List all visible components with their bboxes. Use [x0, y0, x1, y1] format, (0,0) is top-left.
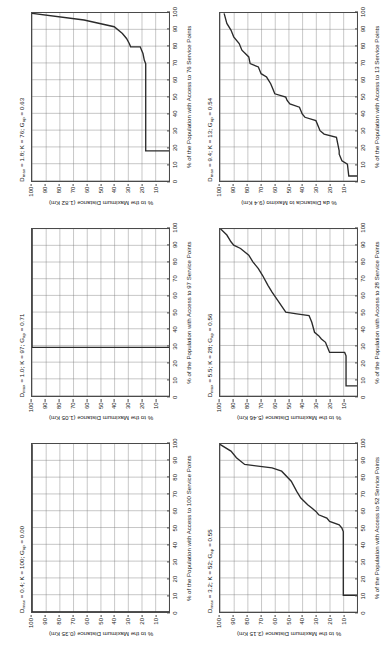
- y-tick-label: 40: [299, 187, 305, 194]
- x-tick-mark: [167, 397, 170, 398]
- y-tick-label: 90: [42, 187, 48, 194]
- x-tick-mark: [355, 181, 358, 182]
- x-tick-mark: [167, 181, 170, 182]
- y-tick-label: 50: [286, 618, 292, 625]
- x-tick-label: 90: [172, 241, 178, 248]
- panel-dmax-3-2: Dmax = 3.2; K = 52; Gap = 0.551020304050…: [206, 441, 384, 647]
- x-tick-label: 60: [172, 77, 178, 84]
- y-tick-label: 30: [125, 618, 131, 625]
- y-tick-label: 100: [216, 187, 222, 197]
- y-tick-label: 70: [258, 618, 264, 625]
- y-tick-mark: [142, 615, 143, 618]
- x-tick-label: 30: [172, 343, 178, 350]
- x-tick-label: 100: [172, 438, 178, 448]
- x-tick-label: 20: [172, 360, 178, 367]
- x-tick-label: 90: [360, 241, 366, 248]
- y-tick-mark: [128, 399, 129, 402]
- y-tick-mark: [274, 399, 275, 402]
- x-tick-mark: [167, 494, 170, 495]
- x-tick-mark: [167, 380, 170, 381]
- y-tick-label: 10: [153, 187, 159, 194]
- panel-dmax-1-0: Dmax = 1.0; K = 97; Gap = 0.711020304050…: [18, 226, 196, 432]
- y-tick-mark: [58, 399, 59, 402]
- x-tick-mark: [355, 113, 358, 114]
- y-tick-label: 10: [341, 618, 347, 625]
- x-tick-label: 30: [360, 127, 366, 134]
- y-tick-mark: [302, 399, 303, 402]
- y-axis-label-host: % to the Maximum Distance (5.46 Km): [219, 419, 358, 431]
- cdf-curve: [224, 13, 357, 176]
- plot-area: [31, 12, 170, 182]
- y-tick-label: 70: [70, 402, 76, 409]
- y-tick-label: 40: [299, 618, 305, 625]
- y-tick-mark: [100, 399, 101, 402]
- x-tick-label: 0: [360, 180, 366, 183]
- plot-grid: [219, 443, 358, 613]
- plot-grid: [31, 12, 170, 182]
- y-tick-mark: [274, 184, 275, 187]
- y-tick-mark: [31, 184, 32, 187]
- x-tick-mark: [167, 363, 170, 364]
- x-tick-mark: [355, 494, 358, 495]
- y-tick-mark: [316, 184, 317, 187]
- y-tick-label: 30: [125, 402, 131, 409]
- y-tick-label: 50: [98, 618, 104, 625]
- y-tick-label: 10: [153, 618, 159, 625]
- x-tick-mark: [355, 397, 358, 398]
- y-tick-label: 70: [258, 402, 264, 409]
- x-tick-label: 30: [360, 343, 366, 350]
- y-tick-mark: [100, 184, 101, 187]
- y-tick-label: 60: [84, 402, 90, 409]
- y-tick-mark: [156, 615, 157, 618]
- x-tick-mark: [355, 295, 358, 296]
- x-tick-label: 80: [360, 258, 366, 265]
- x-tick-mark: [167, 579, 170, 580]
- x-tick-label: 40: [360, 542, 366, 549]
- x-tick-label: 20: [172, 576, 178, 583]
- plot-area: [219, 12, 358, 182]
- y-tick-mark: [142, 184, 143, 187]
- y-tick-label: 20: [139, 618, 145, 625]
- y-tick-mark: [114, 615, 115, 618]
- y-tick-label: 100: [28, 187, 34, 197]
- y-tick-label: 20: [327, 402, 333, 409]
- x-tick-mark: [355, 227, 358, 228]
- y-tick-label: 50: [286, 402, 292, 409]
- chart-title: Dmax = 0.4; K = 100; Gap = 0.00: [18, 443, 31, 613]
- x-tick-mark: [355, 79, 358, 80]
- y-tick-mark: [58, 615, 59, 618]
- x-axis-label: % of the Population with Access to 13 Se…: [373, 12, 383, 182]
- x-axis-ticks: 0102030405060708090100: [358, 443, 370, 613]
- x-tick-label: 90: [360, 26, 366, 33]
- x-tick-mark: [167, 596, 170, 597]
- y-tick-label: 60: [272, 618, 278, 625]
- plot-grid: [31, 228, 170, 398]
- y-tick-mark: [330, 615, 331, 618]
- plot-area: [219, 443, 358, 613]
- y-tick-label: 70: [70, 187, 76, 194]
- y-axis-label-host: % to the Maximum Distance (0.35 Km): [31, 635, 170, 647]
- y-tick-label: 80: [244, 187, 250, 194]
- y-tick-mark: [246, 184, 247, 187]
- x-tick-label: 50: [172, 525, 178, 532]
- x-tick-mark: [167, 113, 170, 114]
- y-tick-mark: [72, 399, 73, 402]
- y-tick-mark: [100, 615, 101, 618]
- x-tick-label: 10: [172, 593, 178, 600]
- y-tick-mark: [156, 399, 157, 402]
- y-tick-mark: [232, 399, 233, 402]
- x-tick-label: 90: [172, 26, 178, 33]
- x-tick-label: 30: [360, 559, 366, 566]
- x-tick-label: 60: [360, 508, 366, 515]
- x-tick-mark: [355, 96, 358, 97]
- y-tick-label: 40: [111, 618, 117, 625]
- x-axis-label: % of the Population with Access to 76 Se…: [185, 12, 195, 182]
- cdf-curve: [220, 444, 357, 595]
- y-tick-label: 70: [70, 618, 76, 625]
- y-tick-mark: [86, 184, 87, 187]
- x-axis-ticks: 0102030405060708090100: [170, 228, 182, 398]
- y-tick-mark: [330, 184, 331, 187]
- x-tick-mark: [355, 380, 358, 381]
- x-tick-label: 10: [172, 161, 178, 168]
- y-tick-mark: [128, 615, 129, 618]
